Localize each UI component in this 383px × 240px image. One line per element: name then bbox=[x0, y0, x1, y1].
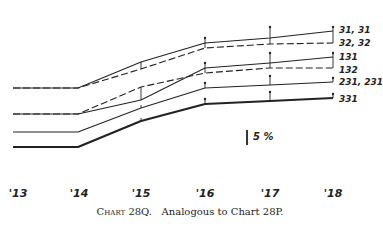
series-label-132: 132 bbox=[339, 65, 358, 75]
series-label-331: 331 bbox=[339, 94, 358, 104]
x-tick-label: '15 bbox=[132, 187, 151, 200]
series-line-32-32 bbox=[13, 43, 333, 88]
series-line-331 bbox=[13, 98, 333, 147]
scale-label: 5 % bbox=[253, 131, 273, 142]
series-label-231-231: 231, 231 bbox=[339, 77, 383, 87]
series-label-131: 131 bbox=[339, 52, 358, 62]
series-line-231-231 bbox=[13, 82, 333, 132]
x-tick-label: '18 bbox=[324, 187, 343, 200]
caption-text: Analogous to Chart 28P. bbox=[162, 206, 284, 217]
series-line-132 bbox=[13, 68, 333, 114]
x-tick-label: '17 bbox=[261, 187, 280, 200]
x-tick-label: '16 bbox=[196, 187, 215, 200]
x-tick-label: '14 bbox=[70, 187, 89, 200]
series-line-131 bbox=[13, 57, 333, 114]
series-label-31-31: 31, 31 bbox=[339, 25, 371, 35]
series-label-32-32: 32, 32 bbox=[339, 38, 371, 48]
caption-prefix: Chart 28Q. bbox=[97, 206, 152, 217]
connector-ticks bbox=[141, 27, 333, 121]
chart-caption: Chart 28Q. Analogous to Chart 28P. bbox=[0, 206, 380, 217]
x-tick-label: '13 bbox=[9, 187, 28, 200]
